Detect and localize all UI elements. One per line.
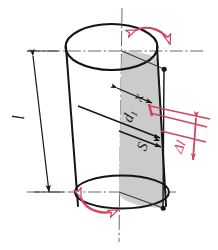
ellipse-top (66, 24, 158, 70)
label-length: l (10, 115, 27, 120)
center-axis-horizontal (27, 51, 204, 192)
diagram-canvas: l x d1 S Δl (0, 0, 218, 250)
cylinder-torsion-figure (0, 0, 218, 250)
dimension-length (27, 51, 64, 192)
rotation-arrow-bottom (81, 198, 118, 213)
